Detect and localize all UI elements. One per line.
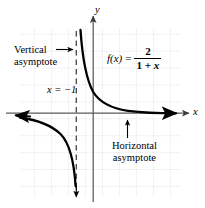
function-equals-sign: = <box>124 52 132 64</box>
fraction-denominator: 1 + x <box>134 60 161 72</box>
vertical-asymptote-equation-label: x = −1 <box>47 84 76 96</box>
graph-canvas <box>0 0 205 208</box>
y-axis-label: y <box>95 4 100 16</box>
function-name: f(x) <box>107 52 122 64</box>
x-axis-label: x <box>193 106 198 118</box>
function-equation-label: f(x) = 2 1 + x <box>107 46 161 71</box>
horizontal-asymptote-label-line1: Horizontal <box>112 140 157 152</box>
function-fraction: 2 1 + x <box>134 46 161 71</box>
horizontal-asymptote-label-line2: asymptote <box>112 152 157 164</box>
denominator-constant: 1 + <box>136 59 153 71</box>
vertical-asymptote-label-line2: asymptote <box>14 56 57 68</box>
vertical-asymptote-label: Vertical asymptote <box>14 44 57 68</box>
fraction-numerator: 2 <box>142 46 154 58</box>
rational-function-figure: Vertical asymptote Horizontal asymptote … <box>0 0 205 208</box>
horizontal-asymptote-label: Horizontal asymptote <box>112 140 157 164</box>
denominator-variable: x <box>154 59 160 71</box>
vertical-asymptote-label-line1: Vertical <box>14 44 57 56</box>
